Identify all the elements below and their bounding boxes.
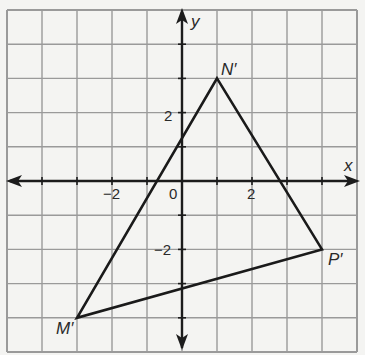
x-axis-label: x bbox=[343, 156, 353, 175]
x-tick-label-2: 2 bbox=[247, 185, 255, 202]
origin-label: 0 bbox=[169, 185, 177, 202]
vertex-label-n: N′ bbox=[221, 60, 237, 79]
y-axis-label: y bbox=[190, 12, 201, 31]
vertex-label-m: M′ bbox=[56, 319, 74, 338]
y-tick-label-neg2: −2 bbox=[154, 241, 171, 258]
x-tick-label-neg2: −2 bbox=[103, 185, 120, 202]
axes bbox=[6, 8, 360, 350]
coordinate-plane: y x 0 −2 2 2 −2 N′ P′ M′ bbox=[0, 0, 365, 355]
y-tick-label-2: 2 bbox=[164, 107, 172, 124]
vertex-label-p: P′ bbox=[328, 250, 343, 269]
